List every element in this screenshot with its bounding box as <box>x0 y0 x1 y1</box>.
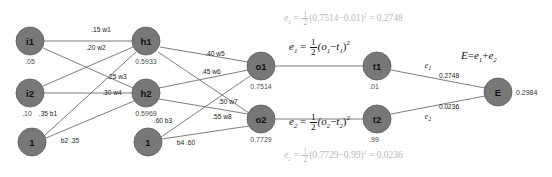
edge-label-w1: .15 w1 <box>91 26 111 33</box>
eq-e1-numeric-denominator: 2 <box>302 18 308 27</box>
equation-total-error: E=e1+e2 <box>461 50 497 64</box>
eq-e1-symbolic-denominator: 2 <box>310 47 317 57</box>
node-o2-label: o2 <box>255 114 266 125</box>
node-h1-value: 0.5933 <box>135 58 157 65</box>
node-E-value: 0.2984 <box>516 89 538 96</box>
node-h1-label: h1 <box>140 36 152 47</box>
node-bias-2[interactable]: 1 <box>134 128 162 156</box>
edge-label-w6: .45 w6 <box>201 68 221 75</box>
svg-text:e1: e1 <box>425 61 432 71</box>
node-t2[interactable]: t2 .99 <box>363 105 391 143</box>
node-o1[interactable]: o1 0.7514 <box>247 52 275 90</box>
edge-label-w3: .25 w3 <box>107 73 127 80</box>
edge-group-input-hidden <box>43 41 136 138</box>
edge-i1-h2 <box>43 48 133 88</box>
eq-e1-symbolic-lhs-sub: 1 <box>294 47 297 54</box>
edge-b2-o2 <box>162 126 249 139</box>
eq-total-term2-sub: 2 <box>493 56 496 63</box>
eq-e1-numeric-result: 0.2748 <box>377 13 403 23</box>
node-bias-1-label: 1 <box>29 137 35 148</box>
edge-group-output-target <box>275 66 363 119</box>
node-h2[interactable]: h2 0.5969 <box>132 79 160 117</box>
node-i2-value: .10 <box>22 110 32 117</box>
node-t2-label: t2 <box>373 114 381 125</box>
eq-total-lhs: E <box>461 49 468 61</box>
eq-e1-numeric-eq2: = <box>369 13 374 23</box>
edge-label-e1-subscript: 1 <box>428 65 431 71</box>
eq-e2-numeric-equals: = <box>294 150 299 160</box>
node-i1[interactable]: i1 .05 <box>16 27 44 65</box>
node-t2-value: .99 <box>369 136 379 143</box>
equation-e1-numeric: e1 = 12(0.7514−0.01)2 = 0.2748 <box>284 11 403 28</box>
eq-e1-symbolic-open: (o <box>318 40 327 52</box>
eq-e1-numeric-expression: (0.7514−0.01) <box>309 13 363 23</box>
network-graph: i1 .05 i2 .10 1 h1 0.5933 h2 0.5969 1 <box>0 0 552 177</box>
eq-e1-numeric-exponent: 2 <box>364 12 367 18</box>
edge-label-e1: e1 0.2748 <box>425 61 460 79</box>
equation-e2-symbolic: e2 = 12(o2−t2)2 <box>289 113 350 132</box>
edge-label-w5: .40 w5 <box>205 50 225 57</box>
eq-e2-numeric-fraction: 12 <box>302 148 308 165</box>
node-o2[interactable]: o2 0.7729 <box>247 105 275 143</box>
eq-e2-symbolic-denominator: 2 <box>310 122 317 132</box>
edge-label-e2-value: 0.0236 <box>439 103 460 110</box>
edge-label-e1-value: 0.2748 <box>439 72 460 79</box>
equation-e1-symbolic: e1 = 12(o1−t1)2 <box>289 38 350 57</box>
node-t1[interactable]: t1 .01 <box>363 52 391 90</box>
node-h2-label: h2 <box>140 88 151 99</box>
eq-e2-numeric-eq2: = <box>369 150 374 160</box>
eq-e1-numeric-equals: = <box>294 13 299 23</box>
edge-label-w4: .30 w4 <box>102 89 122 96</box>
eq-e2-symbolic-numerator: 1 <box>310 113 317 122</box>
node-E-label: E <box>495 87 501 98</box>
node-o2-value: 0.7729 <box>250 136 272 143</box>
eq-e1-numeric-lhs-sub: 1 <box>288 19 291 25</box>
eq-e1-numeric-fraction: 12 <box>302 11 308 28</box>
eq-e2-numeric-numerator: 1 <box>302 148 308 156</box>
eq-e2-numeric-denominator: 2 <box>302 155 308 164</box>
edge-group-hidden-output <box>158 47 250 139</box>
node-i2-label: i2 <box>26 88 34 99</box>
node-h2-value: 0.5969 <box>135 110 157 117</box>
eq-e2-symbolic-equals: = <box>300 115 306 127</box>
edge-label-w8: .55 w8 <box>212 113 232 120</box>
neural-network-diagram: i1 .05 i2 .10 1 h1 0.5933 h2 0.5969 1 <box>0 0 552 177</box>
eq-e2-symbolic-lhs-sub: 2 <box>294 122 297 129</box>
eq-e2-numeric-exponent: 2 <box>364 149 367 155</box>
node-t1-label: t1 <box>373 61 382 72</box>
edge-label-b4: b4 .60 <box>177 139 196 146</box>
node-o1-label: o1 <box>255 61 267 72</box>
eq-e2-symbolic-open: (o <box>318 115 327 127</box>
edge-label-w7: .50 w7 <box>218 98 238 105</box>
eq-e1-symbolic-equals: = <box>300 40 306 52</box>
node-bias-1[interactable]: 1 <box>18 128 46 156</box>
node-E[interactable]: E 0.2984 <box>484 78 538 106</box>
edge-b1-h1 <box>44 52 136 136</box>
edge-label-w2: .20 w2 <box>86 44 106 51</box>
eq-e1-numeric-numerator: 1 <box>302 11 308 19</box>
node-i1-label: i1 <box>26 36 35 47</box>
node-i1-value: .05 <box>25 58 35 65</box>
edge-b1-h2 <box>46 101 134 138</box>
node-h1[interactable]: h1 0.5933 <box>132 27 160 65</box>
edge-h1-o1 <box>160 47 248 62</box>
svg-text:e2: e2 <box>425 112 432 122</box>
eq-e1-symbolic-numerator: 1 <box>310 38 317 47</box>
node-t1-value: .01 <box>369 83 379 90</box>
edge-label-b3: .60 b3 <box>154 117 173 124</box>
edge-label-e2: e2 0.0236 <box>425 103 460 122</box>
edge-label-b2: b2 .35 <box>61 137 80 144</box>
eq-e2-numeric-expression: (0.7729−0.99) <box>309 150 363 160</box>
edge-label-b1: .35 b1 <box>39 110 58 117</box>
eq-e2-numeric-lhs-sub: 2 <box>288 156 291 162</box>
equation-e2-numeric: e2 = 12(0.7729−0.99)2 = 0.0236 <box>284 148 403 165</box>
eq-e1-symbolic-fraction: 12 <box>310 38 317 57</box>
eq-e2-symbolic-exponent: 2 <box>346 114 349 121</box>
edge-label-e2-subscript: 2 <box>428 116 431 122</box>
node-o1-value: 0.7514 <box>250 83 272 90</box>
eq-e2-symbolic-fraction: 12 <box>310 113 317 132</box>
node-bias-2-label: 1 <box>145 137 151 148</box>
eq-e1-symbolic-exponent: 2 <box>346 39 349 46</box>
eq-e2-numeric-result: 0.0236 <box>377 150 403 160</box>
